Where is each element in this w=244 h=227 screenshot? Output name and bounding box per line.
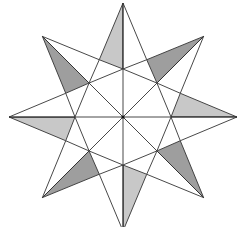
star-arm-shaded-half (171, 93, 237, 117)
star-arm-shaded-half (123, 165, 147, 227)
star-svg (0, 0, 244, 227)
star-arm-white-half (99, 165, 123, 227)
star-arm-shaded-half (99, 3, 123, 69)
eight-pointed-star-diagram (0, 0, 244, 227)
star-arm-white-half (171, 117, 237, 141)
center-point (121, 115, 124, 118)
star-arm-white-half (123, 3, 147, 69)
star-arm-white-half (9, 93, 75, 117)
star-arm-shaded-half (9, 117, 75, 141)
